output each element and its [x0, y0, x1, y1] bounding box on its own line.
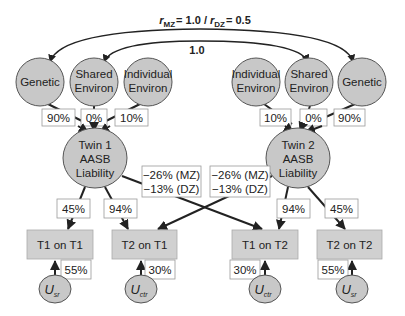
svg-text:Twin 1: Twin 1 — [78, 139, 111, 151]
svg-text:Environ: Environ — [237, 82, 276, 94]
twin1-genetic-path-label: 90% — [42, 109, 75, 126]
svg-text:Shared: Shared — [290, 68, 327, 80]
svg-text:T2 on T1: T2 on T1 — [122, 239, 168, 251]
residual-label-t2-on-t2: 55% — [318, 260, 348, 279]
residual-u-ctr-twin2: Uctr — [249, 275, 281, 303]
outcome-t2-on-t1: T2 on T1 — [112, 230, 177, 259]
twin2-self-path-label: 45% — [325, 199, 358, 218]
twin1-individual-environ-node: Individual Environ — [124, 58, 173, 106]
twin1-own-cross-path-label: 94% — [104, 199, 137, 218]
svg-text:Individual: Individual — [124, 68, 173, 80]
svg-text:T1 on T2: T1 on T2 — [242, 239, 288, 251]
twin1-shared-path-label: 0% — [81, 109, 107, 126]
twin2-genetic-path-label: 90% — [334, 109, 365, 126]
twin1-shared-environ-node: Shared Environ — [70, 58, 118, 106]
svg-text:−26% (MZ): −26% (MZ) — [143, 169, 200, 181]
residual-label-t1-on-t1: 55% — [61, 260, 91, 279]
svg-text:−26% (MZ): −26% (MZ) — [211, 169, 268, 181]
residual-label-t1-on-t2: 30% — [230, 260, 260, 279]
correlation-title: rMZ= 1.0 / rDZ= 0.5 — [159, 14, 251, 29]
residual-arrows — [55, 261, 352, 276]
twin1-cross-effect-label: −26% (MZ) −13% (DZ) — [142, 166, 201, 197]
residual-label-t2-on-t1: 30% — [145, 260, 175, 279]
svg-text:0%: 0% — [305, 112, 322, 124]
twin2-shared-environ-node: Shared Environ — [285, 58, 333, 106]
svg-text:Genetic: Genetic — [20, 76, 60, 88]
twin-model-diagram: rMZ= 1.0 / rDZ= 0.5 1.0 Genetic Shared E… — [0, 0, 405, 316]
svg-text:0%: 0% — [86, 112, 103, 124]
outcome-t1-on-t2: T1 on T2 — [232, 230, 298, 259]
svg-text:94%: 94% — [282, 203, 305, 215]
twin2-individual-environ-node: Individual Environ — [232, 58, 281, 106]
svg-text:55%: 55% — [64, 264, 87, 276]
twin2-genetic-node: Genetic — [338, 58, 386, 106]
twin1-liability-node: Twin 1 AASB Liability — [63, 128, 127, 188]
residual-u-sr-twin1: Usr — [39, 275, 71, 303]
twin1-genetic-node: Genetic — [16, 58, 64, 106]
shared-correlation-arc — [104, 41, 308, 62]
twin1-self-path-label: 45% — [57, 199, 90, 218]
twin2-individual-path-label: 10% — [260, 109, 291, 126]
svg-text:Shared: Shared — [75, 68, 112, 80]
svg-text:−13% (DZ): −13% (DZ) — [144, 183, 200, 195]
svg-text:AASB: AASB — [80, 153, 111, 165]
svg-text:45%: 45% — [330, 203, 353, 215]
twin1-individual-path-label: 10% — [115, 109, 148, 126]
svg-text:30%: 30% — [233, 264, 256, 276]
svg-text:45%: 45% — [62, 203, 85, 215]
twin2-cross-effect-label: −26% (MZ) −13% (DZ) — [210, 166, 270, 197]
residual-u-sr-twin2: Usr — [336, 275, 368, 303]
svg-text:Environ: Environ — [290, 82, 329, 94]
residual-u-ctr-twin1: Uctr — [125, 275, 157, 303]
svg-text:T2 on T2: T2 on T2 — [327, 239, 373, 251]
outcome-t1-on-t1: T1 on T1 — [27, 230, 93, 259]
twin2-liability-node: Twin 2 AASB Liability — [266, 128, 330, 188]
svg-text:90%: 90% — [338, 112, 361, 124]
svg-text:−13% (DZ): −13% (DZ) — [212, 183, 268, 195]
svg-text:10%: 10% — [264, 112, 287, 124]
svg-text:90%: 90% — [47, 112, 70, 124]
svg-text:Genetic: Genetic — [342, 76, 382, 88]
svg-text:Liability: Liability — [76, 167, 115, 179]
shared-correlation-label: 1.0 — [189, 44, 204, 56]
svg-text:Environ: Environ — [75, 82, 114, 94]
twin2-shared-path-label: 0% — [300, 109, 327, 126]
svg-text:55%: 55% — [321, 264, 344, 276]
svg-text:94%: 94% — [109, 203, 132, 215]
svg-text:Liability: Liability — [279, 167, 318, 179]
svg-text:Individual: Individual — [232, 68, 281, 80]
svg-text:10%: 10% — [120, 112, 143, 124]
svg-text:Twin 2: Twin 2 — [281, 139, 314, 151]
svg-text:30%: 30% — [148, 264, 171, 276]
svg-text:AASB: AASB — [283, 153, 314, 165]
svg-text:T1 on T1: T1 on T1 — [37, 239, 83, 251]
outcome-t2-on-t2: T2 on T2 — [317, 230, 382, 259]
twin2-own-cross-path-label: 94% — [277, 199, 310, 218]
svg-text:Environ: Environ — [129, 82, 168, 94]
